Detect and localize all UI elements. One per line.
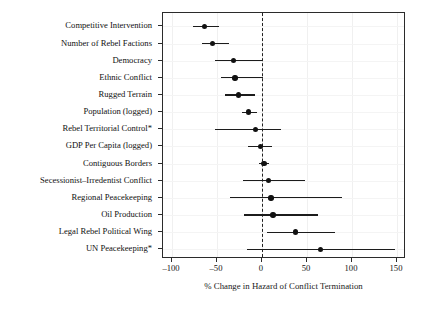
category-tick	[158, 25, 162, 26]
confidence-interval-bar	[244, 214, 318, 215]
x-axis-title: % Change in Hazard of Conflict Terminati…	[162, 281, 405, 291]
plot-area	[162, 12, 405, 258]
category-label: Secessionist–Irredentist Conflict	[40, 175, 152, 184]
estimate-point	[231, 58, 236, 63]
confidence-interval-bar	[221, 77, 263, 78]
category-label: Regional Peacekeeping	[72, 192, 152, 201]
confidence-interval-bar	[202, 43, 229, 44]
category-tick	[158, 60, 162, 61]
estimate-point	[232, 75, 237, 80]
x-axis-tick	[396, 258, 397, 262]
estimate-point	[318, 247, 323, 252]
category-tick	[158, 128, 162, 129]
category-label: Number of Rebel Factions	[61, 38, 152, 47]
confidence-interval-bar	[215, 60, 262, 61]
gridline-vertical	[397, 13, 398, 257]
estimate-point	[202, 24, 207, 29]
category-label: Rugged Terrain	[99, 89, 152, 98]
category-tick	[158, 231, 162, 232]
coefficient-plot: Competitive InterventionNumber of Rebel …	[0, 0, 421, 309]
category-tick	[158, 94, 162, 95]
x-axis-tick-label: –100	[162, 263, 179, 273]
category-label: Legal Rebel Political Wing	[59, 227, 152, 236]
category-label: Democracy	[112, 55, 152, 64]
category-label: Oil Production	[101, 209, 152, 218]
estimate-point	[270, 212, 275, 217]
x-axis-tick	[261, 258, 262, 262]
gridline-vertical	[172, 13, 173, 257]
plot-inner	[163, 13, 404, 257]
category-label: Ethnic Conflict	[99, 72, 152, 81]
estimate-point	[268, 195, 273, 200]
category-tick	[158, 197, 162, 198]
gridline-vertical	[307, 13, 308, 257]
x-axis-tick	[351, 258, 352, 262]
category-tick	[158, 163, 162, 164]
category-label: GDP Per Capita (logged)	[66, 141, 152, 150]
gridline-horizontal	[163, 61, 404, 62]
gridline-vertical	[217, 13, 218, 257]
confidence-interval-bar	[267, 232, 335, 233]
category-tick	[158, 111, 162, 112]
zero-reference-line	[262, 13, 263, 257]
category-tick	[158, 43, 162, 44]
x-axis-tick-label: –50	[210, 263, 223, 273]
x-axis-tick	[216, 258, 217, 262]
estimate-point	[293, 229, 298, 234]
x-axis-tick-label: 50	[302, 263, 311, 273]
gridline-horizontal	[163, 112, 404, 113]
x-axis-tick	[306, 258, 307, 262]
gridline-horizontal	[163, 95, 404, 96]
x-axis-tick-label: 150	[390, 263, 403, 273]
confidence-interval-bar	[215, 129, 281, 130]
gridline-horizontal	[163, 129, 404, 130]
x-axis-title-text: % Change in Hazard of Conflict Terminati…	[204, 281, 363, 291]
category-label: Contiguous Borders	[83, 158, 152, 167]
category-label: Population (logged)	[83, 107, 152, 116]
gridline-horizontal	[163, 78, 404, 79]
category-label: UN Peacekeeping*	[86, 244, 152, 253]
category-label: Rebel Territorial Control*	[63, 124, 152, 133]
estimate-point	[210, 41, 215, 46]
category-label: Competitive Intervention	[65, 21, 152, 30]
estimate-point	[236, 92, 241, 97]
gridline-vertical	[352, 13, 353, 257]
category-tick	[158, 180, 162, 181]
gridline-horizontal	[163, 44, 404, 45]
estimate-point	[266, 178, 271, 183]
gridline-horizontal	[163, 146, 404, 147]
x-axis-tick	[171, 258, 172, 262]
x-axis-tick-label: 100	[345, 263, 358, 273]
category-tick	[158, 214, 162, 215]
category-axis-labels: Competitive InterventionNumber of Rebel …	[0, 0, 158, 309]
confidence-interval-bar	[243, 180, 305, 181]
gridline-horizontal	[163, 164, 404, 165]
confidence-interval-bar	[230, 197, 343, 198]
estimate-point	[258, 144, 263, 149]
category-tick	[158, 248, 162, 249]
x-axis-tick-label: 0	[259, 263, 263, 273]
category-tick	[158, 145, 162, 146]
category-tick	[158, 77, 162, 78]
estimate-point	[246, 109, 251, 114]
estimate-point	[261, 161, 266, 166]
estimate-point	[253, 127, 258, 132]
